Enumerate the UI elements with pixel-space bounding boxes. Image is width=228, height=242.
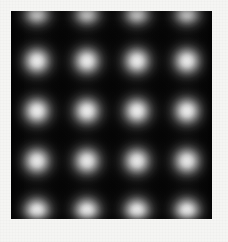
lattice-spot [153,27,212,95]
lattice-spot [153,11,212,45]
figure-root [0,0,228,242]
lattice-spot [53,127,121,195]
lattice-spot [103,77,171,145]
lattice-spot [11,177,71,219]
lattice-spot [53,27,121,95]
lattice-spot [53,177,121,219]
scientific-image-panel [11,11,212,219]
lattice-spot [11,27,71,95]
lattice-spot [153,177,212,219]
lattice-spot-layer [11,11,212,219]
lattice-spot [103,177,171,219]
lattice-spot [103,11,171,45]
lattice-spot [53,77,121,145]
lattice-spot [53,11,121,45]
lattice-spot [103,27,171,95]
lattice-spot [11,11,71,45]
lattice-spot [11,77,71,145]
lattice-spot [153,127,212,195]
lattice-spot [153,77,212,145]
lattice-spot [103,127,171,195]
lattice-spot [11,127,71,195]
